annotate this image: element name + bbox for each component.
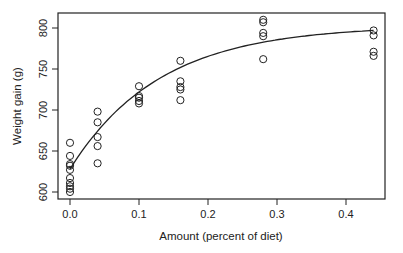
y-tick-label: 600 xyxy=(37,183,49,201)
y-tick-label: 750 xyxy=(37,60,49,78)
data-point xyxy=(260,56,267,63)
y-axis: 600650700750800 xyxy=(37,19,58,201)
x-tick-label: 0.3 xyxy=(269,208,284,220)
fitted-curve xyxy=(70,30,374,169)
chart-figure: 0.00.10.20.30.4 600650700750800 Amount (… xyxy=(0,0,403,253)
x-axis: 0.00.10.20.30.4 xyxy=(62,199,353,220)
y-tick-label: 800 xyxy=(37,19,49,37)
data-point xyxy=(66,139,73,146)
data-point xyxy=(135,83,142,90)
data-point xyxy=(94,108,101,115)
data-point xyxy=(370,48,377,55)
data-point xyxy=(66,152,73,159)
data-point xyxy=(370,32,377,39)
data-point xyxy=(177,97,184,104)
plot-border xyxy=(58,13,385,199)
y-tick-label: 700 xyxy=(37,101,49,119)
y-tick-label: 650 xyxy=(37,142,49,160)
x-tick-label: 0.2 xyxy=(200,208,215,220)
x-axis-title: Amount (percent of diet) xyxy=(159,230,283,242)
data-point xyxy=(177,57,184,64)
plot-area xyxy=(58,13,385,199)
x-tick-label: 0.4 xyxy=(338,208,353,220)
scatter-points xyxy=(66,16,377,195)
x-tick-label: 0.0 xyxy=(62,208,77,220)
data-point xyxy=(94,119,101,126)
y-axis-title: Weight gain (g) xyxy=(11,67,23,145)
data-point xyxy=(370,52,377,59)
data-point xyxy=(94,160,101,167)
data-point xyxy=(94,142,101,149)
x-tick-label: 0.1 xyxy=(131,208,146,220)
